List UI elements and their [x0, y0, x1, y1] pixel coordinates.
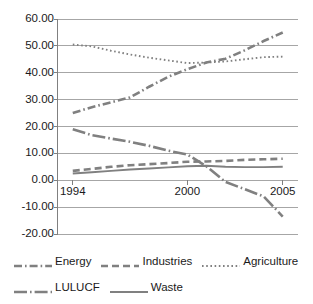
legend-label: Agriculture: [243, 256, 298, 268]
legend-item-agriculture[interactable]: Agriculture: [202, 256, 298, 268]
legend-item-industries[interactable]: Industries: [101, 256, 192, 268]
legend-swatch-waste-icon: [110, 283, 148, 293]
x-tick-label: 2005: [270, 186, 296, 198]
legend-swatch-industries-icon: [101, 257, 139, 267]
legend-item-waste[interactable]: Waste: [110, 282, 183, 294]
legend-item-energy[interactable]: Energy: [14, 256, 91, 268]
legend-label: LULUCF: [55, 282, 100, 294]
chart-legend: EnergyIndustriesAgricultureLULUCFWaste: [0, 249, 313, 304]
legend-item-lulucf[interactable]: LULUCF: [14, 282, 100, 294]
legend-label: Industries: [142, 256, 192, 268]
legend-label: Waste: [151, 282, 183, 294]
legend-swatch-lulucf-icon: [14, 283, 52, 293]
legend-label: Energy: [55, 256, 91, 268]
plot-area: 60.0050.0040.0030.0020.0010.000.00-10.00…: [0, 0, 313, 246]
legend-row: EnergyIndustriesAgriculture: [0, 249, 313, 275]
x-axis-tick-labels: 199420002005: [0, 0, 313, 246]
chart-container: 60.0050.0040.0030.0020.0010.000.00-10.00…: [0, 0, 313, 304]
x-tick-label: 1994: [60, 186, 86, 198]
x-tick-label: 2000: [174, 186, 200, 198]
legend-swatch-energy-icon: [14, 257, 52, 267]
legend-row: LULUCFWaste: [0, 275, 313, 301]
legend-swatch-agriculture-icon: [202, 257, 240, 267]
